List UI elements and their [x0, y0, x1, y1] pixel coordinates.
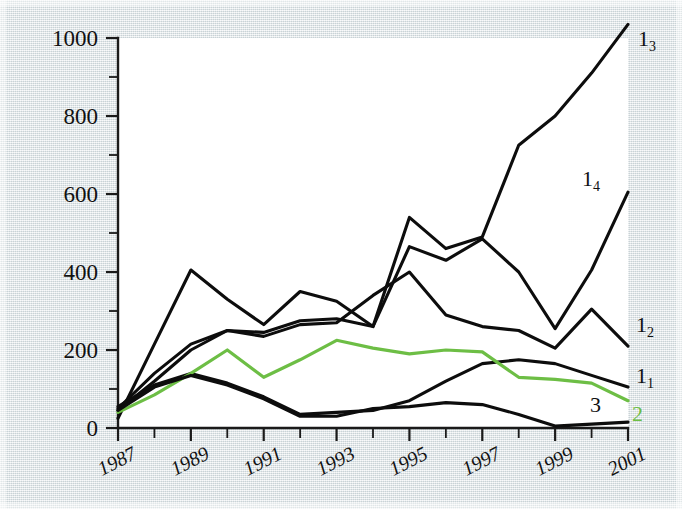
- x-axis-tick-labels: 19871989199119931995199719992001: [94, 441, 650, 479]
- x-tick-label: 1997: [458, 441, 505, 479]
- series-label-1_3: 13: [638, 26, 656, 54]
- x-tick-label: 1993: [312, 442, 358, 480]
- x-tick-label: 2001: [604, 442, 650, 480]
- series-label-2: 2: [632, 401, 643, 426]
- x-axis-ticks: [118, 428, 628, 441]
- x-tick-label: 1989: [167, 442, 213, 480]
- y-tick-label: 0: [87, 416, 99, 441]
- x-tick-label: 1995: [385, 442, 431, 480]
- x-tick-label: 1999: [531, 442, 577, 480]
- y-tick-label: 1000: [52, 26, 98, 51]
- y-tick-label: 800: [64, 104, 99, 129]
- series-label-1_2: 12: [636, 312, 654, 340]
- x-tick-label: 1991: [240, 442, 286, 480]
- series-label-3: 3: [590, 392, 601, 417]
- x-tick-label: 1987: [94, 441, 141, 479]
- y-axis-ticks: [106, 38, 118, 428]
- y-tick-label: 400: [64, 260, 99, 285]
- y-axis-tick-labels: 02004006008001000: [52, 26, 98, 441]
- line-chart: 02004006008001000 1987198919911993199519…: [0, 0, 682, 509]
- series-label-1_1: 11: [636, 363, 654, 391]
- y-tick-label: 600: [64, 182, 99, 207]
- y-tick-label: 200: [64, 338, 99, 363]
